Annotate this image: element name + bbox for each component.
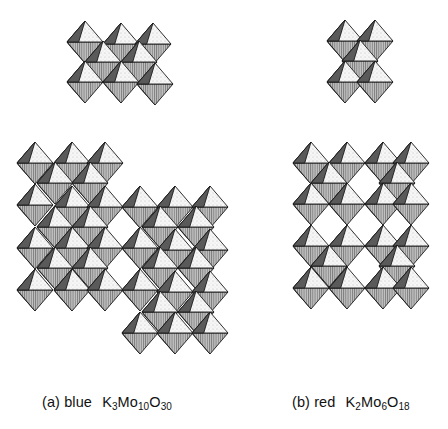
color-name-b: red <box>314 394 335 410</box>
bottom-face <box>122 333 158 354</box>
color-name-a: blue <box>64 394 92 410</box>
bottom-face <box>103 82 139 103</box>
crystal-structure-figure <box>0 0 448 429</box>
panel-label-a: (a) <box>42 394 60 410</box>
panel-label-b: (b) <box>292 394 310 410</box>
bottom-face <box>329 288 365 309</box>
bottom-face <box>293 204 329 225</box>
cluster-b-lower <box>293 142 429 309</box>
octahedra-layer <box>17 20 429 354</box>
bottom-face <box>157 333 193 354</box>
bottom-face <box>137 84 173 105</box>
cluster-b-top <box>327 20 393 103</box>
bottom-face <box>327 82 363 103</box>
bottom-face <box>67 82 103 103</box>
bottom-face <box>329 204 365 225</box>
bottom-face <box>54 290 90 311</box>
caption-panel-a: (a) blue K3Mo10O30 <box>42 394 172 410</box>
bottom-face <box>293 288 329 309</box>
bottom-face <box>393 288 429 309</box>
formula-b: K2Mo6O18 <box>346 394 410 410</box>
cluster-a-top <box>67 21 173 105</box>
caption-panel-b: (b) red K2Mo6O18 <box>292 394 410 410</box>
bottom-face <box>393 204 429 225</box>
bottom-face <box>87 290 123 311</box>
bottom-face <box>192 333 228 354</box>
bottom-face <box>17 290 53 311</box>
bottom-face <box>357 82 393 103</box>
cluster-a-lower <box>17 142 228 354</box>
formula-a: K3Mo10O30 <box>102 394 172 410</box>
